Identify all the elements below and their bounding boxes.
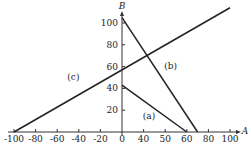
x-tick-label: 0 [119, 134, 125, 144]
axes: -100-80-60-40-2004050608010020406080100 [4, 11, 241, 144]
x-tick-label: -20 [93, 134, 108, 144]
x-tick-label: 50 [159, 134, 171, 144]
x-tick-label: 60 [181, 134, 193, 144]
series-label-b: (b) [164, 61, 177, 71]
y-axis-label: B [118, 1, 126, 11]
x-tick-label: -60 [50, 134, 65, 144]
diagram: -100-80-60-40-2004050608010020406080100 … [0, 0, 251, 145]
x-tick-label: 40 [138, 134, 150, 144]
x-tick-label: -100 [4, 134, 24, 144]
series-line-a [122, 85, 187, 132]
y-tick-label: 40 [107, 83, 119, 93]
y-tick-label: 20 [107, 105, 119, 115]
series-label-c: (c) [67, 72, 79, 82]
series-line-b [122, 18, 198, 132]
x-tick-label: 100 [221, 134, 238, 144]
x-tick-label: 80 [203, 134, 215, 144]
y-tick-label: 60 [107, 62, 119, 72]
labels-group: AB(a)(b)(c) [67, 1, 248, 136]
y-axis-arrow [120, 11, 124, 16]
series-label-a: (a) [143, 111, 155, 121]
x-tick-label: -80 [28, 134, 43, 144]
y-tick-label: 80 [107, 40, 119, 50]
x-tick-label: -40 [72, 134, 87, 144]
x-axis-label: A [241, 126, 249, 136]
y-tick-label: 100 [101, 18, 118, 28]
